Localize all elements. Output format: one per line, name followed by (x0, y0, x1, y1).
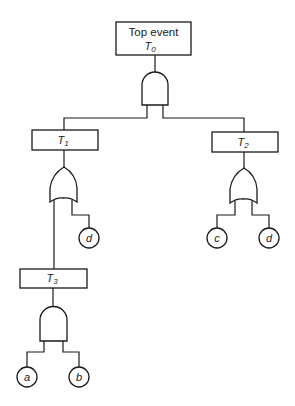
and-gate-t3 (40, 307, 67, 342)
basic-event-label: d (266, 232, 273, 244)
basic-event-c-t2: c (207, 228, 227, 248)
top-event-node: Top event T0 (116, 22, 191, 55)
basic-event-label: d (86, 232, 93, 244)
connector-to-t1 (64, 105, 147, 130)
connector-t1-to-d (72, 200, 89, 228)
connector-t2-to-d (252, 201, 269, 228)
or-gate-t2 (230, 168, 257, 203)
connector-t3-to-b (63, 341, 79, 367)
basic-event-a-t3: a (17, 367, 37, 387)
top-event-title: Top event (129, 26, 180, 38)
basic-event-d-t2: d (259, 228, 279, 248)
connector-t3-to-a (27, 341, 44, 367)
and-gate-top (142, 72, 168, 105)
t1-node: T1 (32, 130, 98, 150)
connector-t2-to-c (217, 201, 235, 228)
t2-node: T2 (212, 132, 278, 152)
or-gate-t1 (50, 167, 77, 202)
basic-event-label: c (214, 232, 220, 244)
connector-to-t2 (163, 105, 244, 132)
basic-event-label: b (76, 371, 82, 383)
t3-node: T3 (20, 269, 87, 288)
basic-event-label: a (24, 371, 30, 383)
basic-event-d-t1: d (79, 228, 99, 248)
fault-tree-diagram: Top event T0 T1 d T2 c d T3 (0, 0, 295, 406)
basic-event-b-t3: b (69, 367, 89, 387)
